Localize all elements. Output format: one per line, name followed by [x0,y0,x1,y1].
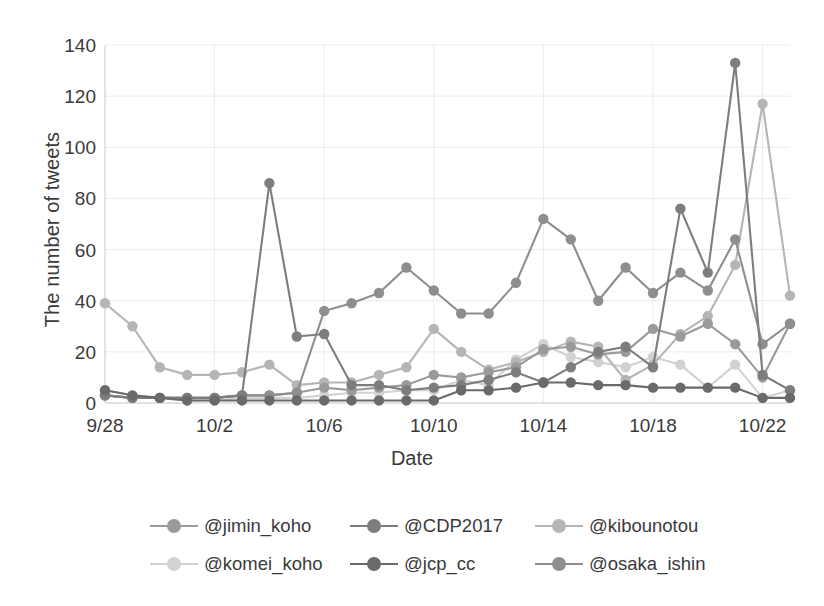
x-axis-tick-label: 10/6 [306,414,343,439]
legend-label: @osaka_ishin [589,553,705,575]
series-kibounotou [100,99,795,391]
series-CDP2017 [100,58,795,403]
legend-item-jimin-koho[interactable]: @jimin_koho [150,509,311,543]
legend-swatch-icon [350,518,398,534]
legend-item-osaka-ishin[interactable]: @osaka_ishin [535,547,705,581]
legend-row: @jimin_koho@CDP2017@kibounotou [150,509,710,543]
series-jimin-koho [100,319,795,404]
legend-swatch-icon [535,518,583,534]
x-axis-tick-label: 10/22 [739,414,787,439]
x-axis-tick-labels: 9/2810/210/610/1010/1410/1810/22 [0,414,824,442]
legend-swatch-icon [150,556,198,572]
legend-item-CDP2017[interactable]: @CDP2017 [350,509,503,543]
legend-row: @komei_koho@jcp_cc@osaka_ishin [150,547,710,581]
legend-label: @komei_koho [204,553,323,575]
chart-legend: @jimin_koho@CDP2017@kibounotou@komei_koh… [150,505,710,585]
x-axis-tick-label: 10/2 [196,414,233,439]
x-axis-tick-label: 10/18 [629,414,677,439]
legend-label: @kibounotou [589,515,698,537]
x-axis-title: Date [0,447,824,470]
x-axis-tick-label: 10/14 [520,414,568,439]
legend-swatch-icon [350,556,398,572]
legend-swatch-icon [150,518,198,534]
legend-item-komei-koho[interactable]: @komei_koho [150,547,323,581]
x-axis-tick-label: 9/28 [87,414,124,439]
legend-label: @jcp_cc [404,553,475,575]
legend-item-jcp-cc[interactable]: @jcp_cc [350,547,475,581]
series-jcp-cc [100,377,795,405]
tweet-count-line-chart: The number of tweets 020406080100120140 … [0,0,824,606]
x-axis-tick-label: 10/10 [410,414,458,439]
legend-swatch-icon [535,556,583,572]
legend-label: @CDP2017 [404,515,503,537]
legend-item-kibounotou[interactable]: @kibounotou [535,509,698,543]
legend-label: @jimin_koho [204,515,311,537]
